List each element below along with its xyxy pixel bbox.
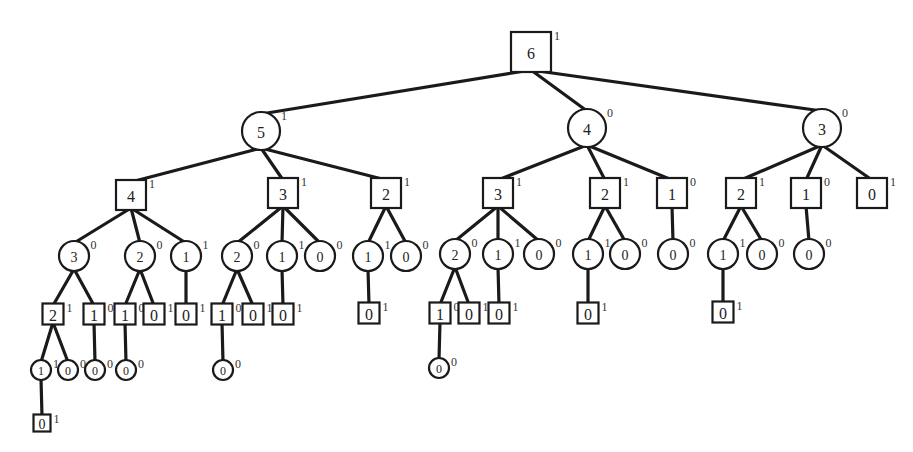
node-value: 0 xyxy=(584,306,592,323)
node-value: 0 xyxy=(39,417,46,432)
node-label: 0 xyxy=(556,236,562,250)
square-node: 01 xyxy=(713,299,743,323)
tree-edge xyxy=(439,322,440,361)
square-node: 01 xyxy=(273,301,303,325)
square-node: 31 xyxy=(268,175,307,208)
node-label: 1 xyxy=(516,175,522,189)
tree-edge xyxy=(237,206,283,243)
tree-edge xyxy=(125,323,126,363)
node-label: 1 xyxy=(605,236,611,250)
square-node: 01 xyxy=(176,301,206,325)
circle-node: 00 xyxy=(85,357,113,380)
node-label: 1 xyxy=(890,175,896,189)
square-node: 01 xyxy=(144,301,174,325)
circle-node: 00 xyxy=(747,236,785,269)
node-value: 0 xyxy=(868,186,876,203)
node-value: 1 xyxy=(495,248,502,263)
tree-edge xyxy=(282,269,283,306)
node-value: 0 xyxy=(403,250,410,265)
square-node: 10 xyxy=(115,301,145,325)
node-label: 1 xyxy=(149,177,155,191)
tree-edge xyxy=(531,70,822,111)
square-node: 21 xyxy=(43,301,73,325)
tree-nodes: 6151403041312131211021100130201120110011… xyxy=(31,29,896,432)
square-node: 61 xyxy=(511,29,560,72)
node-value: 2 xyxy=(737,186,745,203)
node-label: 1 xyxy=(759,175,765,189)
node-label: 0 xyxy=(642,236,648,250)
tree-edge xyxy=(41,378,42,417)
node-label: 1 xyxy=(203,238,209,252)
square-node: 10 xyxy=(791,175,830,208)
node-label: 0 xyxy=(779,236,785,250)
node-label: 1 xyxy=(515,236,521,250)
node-label: 1 xyxy=(168,301,174,315)
node-value: 5 xyxy=(257,124,265,141)
node-value: 2 xyxy=(137,250,144,265)
square-node: 21 xyxy=(371,175,410,208)
node-value: 0 xyxy=(495,306,503,323)
node-label: 1 xyxy=(623,175,629,189)
square-node: 01 xyxy=(857,175,896,208)
square-node: 21 xyxy=(726,175,765,208)
node-value: 1 xyxy=(121,307,129,324)
tree-edge xyxy=(588,206,605,241)
node-label: 1 xyxy=(404,175,410,189)
node-label: 1 xyxy=(54,412,60,426)
node-label: 1 xyxy=(383,300,389,314)
node-value: 0 xyxy=(465,306,473,323)
tree-edge xyxy=(94,323,95,363)
square-node: 01 xyxy=(243,301,273,325)
node-value: 0 xyxy=(249,307,257,324)
square-node: 10 xyxy=(430,300,460,324)
square-node: 10 xyxy=(657,175,696,208)
node-value: 0 xyxy=(150,307,158,324)
node-value: 3 xyxy=(818,121,826,138)
tree-edge xyxy=(41,323,53,363)
node-label: 0 xyxy=(91,238,97,252)
tree-edge xyxy=(74,269,94,306)
node-label: 0 xyxy=(826,236,832,250)
tree-edge xyxy=(587,145,672,180)
game-tree-diagram: 6151403041312131211021100130201120110011… xyxy=(0,0,913,452)
node-label: 0 xyxy=(236,301,242,315)
node-value: 1 xyxy=(585,248,592,263)
circle-node: 20 xyxy=(440,236,478,269)
node-value: 1 xyxy=(365,250,372,265)
node-label: 0 xyxy=(842,106,848,120)
tree-edge xyxy=(261,70,531,114)
node-label: 1 xyxy=(299,238,305,252)
circle-node: 30 xyxy=(59,238,97,271)
tree-edge xyxy=(723,206,741,241)
circle-node: 40 xyxy=(568,106,613,147)
node-value: 1 xyxy=(183,250,190,265)
node-label: 1 xyxy=(554,29,560,43)
node-value: 1 xyxy=(436,306,444,323)
square-node: 01 xyxy=(34,412,60,432)
circle-node: 00 xyxy=(116,357,144,380)
circle-node: 11 xyxy=(171,238,209,271)
tree-edge xyxy=(498,267,499,305)
node-value: 1 xyxy=(90,307,98,324)
circle-node: 00 xyxy=(658,236,696,269)
node-value: 2 xyxy=(601,186,609,203)
node-label: 1 xyxy=(281,109,287,123)
node-value: 2 xyxy=(234,250,241,265)
node-value: 2 xyxy=(382,186,390,203)
node-label: 1 xyxy=(740,236,746,250)
circle-node: 00 xyxy=(58,357,86,380)
node-value: 3 xyxy=(494,186,502,203)
circle-node: 30 xyxy=(803,106,848,147)
square-node: 01 xyxy=(578,300,608,324)
node-label: 0 xyxy=(235,357,241,371)
node-value: 0 xyxy=(622,248,629,263)
square-node: 21 xyxy=(590,175,629,208)
node-label: 1 xyxy=(385,238,391,252)
circle-node: 00 xyxy=(794,236,832,269)
node-value: 2 xyxy=(452,248,459,263)
node-value: 0 xyxy=(806,248,813,263)
circle-node: 11 xyxy=(483,236,521,269)
node-value: 3 xyxy=(279,186,287,203)
node-label: 0 xyxy=(108,301,114,315)
node-value: 1 xyxy=(218,307,226,324)
